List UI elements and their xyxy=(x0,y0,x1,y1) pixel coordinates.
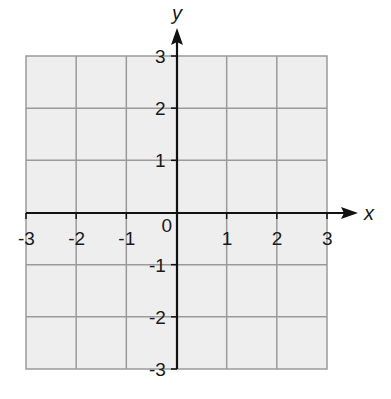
x-tick-label: -2 xyxy=(68,228,85,249)
y-tick-label: -1 xyxy=(149,255,166,276)
y-tick-label: 3 xyxy=(155,46,166,67)
x-axis-label: x xyxy=(363,202,375,224)
x-tick-label: 0 xyxy=(162,215,173,236)
x-tick-label: 3 xyxy=(322,228,333,249)
coordinate-plane: x y -3-2-10123 321-1-2-3 xyxy=(0,0,391,399)
y-tick-label: -3 xyxy=(149,359,166,380)
y-tick-label: -2 xyxy=(149,307,166,328)
x-tick-label: 1 xyxy=(222,228,233,249)
y-tick-label: 1 xyxy=(155,150,166,171)
x-tick-label: -3 xyxy=(18,228,35,249)
x-tick-label: -1 xyxy=(118,228,135,249)
y-tick-label: 2 xyxy=(155,98,166,119)
x-tick-label: 2 xyxy=(272,228,283,249)
y-axis-label: y xyxy=(170,2,183,24)
